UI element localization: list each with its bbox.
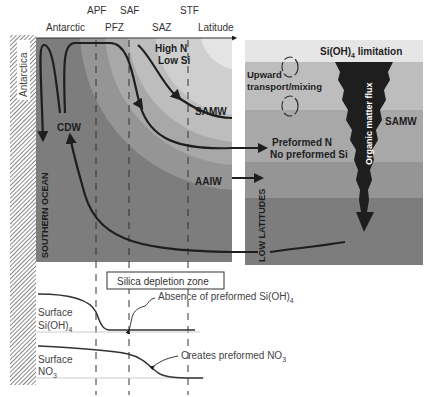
creates-no3-annotation: Creates preformed NO3 xyxy=(181,350,286,363)
preformed-n-label: Preformed N xyxy=(272,137,332,148)
zone-label-pfz: PFZ xyxy=(105,22,124,33)
front-label-saf: SAF xyxy=(120,5,139,16)
southern-ocean-nutrient-diagram: Antarctica APF SAF STF Antarctic PFZ SAZ… xyxy=(0,0,431,397)
zone-label-saz: SAZ xyxy=(152,22,171,33)
aaiw-label: AAIW xyxy=(195,176,222,187)
silica-depletion-zone-label: Silica depletion zone xyxy=(117,276,209,287)
high-n-label: High N xyxy=(155,43,187,54)
cdw-label: CDW xyxy=(57,122,81,133)
creates-no3-pointer xyxy=(154,356,178,366)
low-si-label: Low Si xyxy=(158,55,190,66)
front-label-apf: APF xyxy=(87,5,106,16)
absence-si-pointer xyxy=(129,298,155,330)
upward-transport-label-2: transport/mixing xyxy=(247,81,322,92)
antarctica-label: Antarctica xyxy=(18,52,29,97)
southern-ocean-label: SOUTHERN OCEAN xyxy=(40,172,50,258)
samw-label-right: SAMW xyxy=(385,116,417,127)
absence-si-annotation: Absence of preformed Si(OH)4 xyxy=(158,291,294,304)
no-preformed-si-label: No preformed Si xyxy=(270,149,348,160)
upward-transport-label-1: Upward xyxy=(247,69,282,80)
surface-si-label-2: Si(OH)4 xyxy=(38,320,73,333)
surface-no3-label-2: NO3 xyxy=(38,366,57,379)
organic-matter-flux-label: Organic matter flux xyxy=(364,82,374,165)
surface-no3-label-1: Surface xyxy=(38,354,73,365)
low-latitudes-label: LOW LATITUDES xyxy=(257,189,267,262)
latitude-axis-label: Latitude xyxy=(198,22,234,33)
front-label-stf: STF xyxy=(180,5,199,16)
surface-si-label-1: Surface xyxy=(38,307,73,318)
samw-label-left: SAMW xyxy=(195,106,227,117)
zone-label-antarctic: Antarctic xyxy=(46,22,85,33)
